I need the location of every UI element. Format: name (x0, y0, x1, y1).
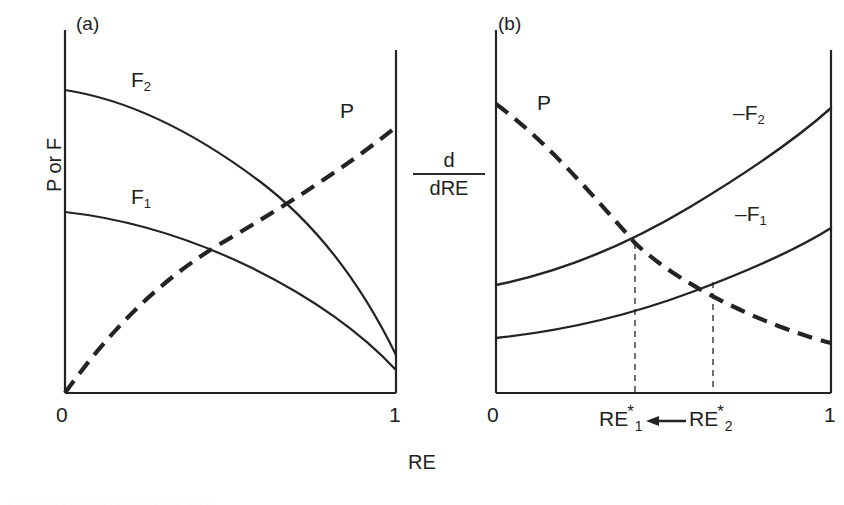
panel-b-tick-re1: RE*1 (599, 404, 643, 429)
panel-b-tick-1: 1 (824, 404, 836, 425)
panel-a-curve-f2 (65, 90, 396, 355)
panel-a-curve-p (65, 127, 396, 393)
panel-b-tick-re1-base: RE (599, 407, 628, 430)
panel-a-axes (65, 30, 396, 393)
panel-a-tag: (a) (76, 14, 99, 33)
panel-b-tick-re2-sub: 2 (725, 418, 733, 434)
panel-b-tick-re2: RE*2 (689, 404, 733, 429)
panel-b-label-nf1-sub: 1 (760, 213, 767, 228)
panel-b-y-axis-title: d dRE (409, 150, 489, 198)
figure-x-axis-title: RE (0, 452, 844, 472)
panel-b-tick-re2-star: * (717, 402, 724, 421)
panel-b-label-nf1: –F1 (735, 203, 767, 224)
panel-b-curve-nf1 (496, 228, 831, 338)
panel-a-label-f1-sub: 1 (144, 196, 151, 211)
fraction-rule (413, 173, 485, 175)
panel-a-label-f2-sub: 2 (144, 79, 151, 94)
panel-b-y-axis-title-denominator: dRE (409, 177, 489, 198)
panel-b-label-nf2: –F2 (733, 102, 765, 123)
panel-a-tick-0: 0 (56, 404, 68, 425)
panel-b-tick-re2-base: RE (689, 407, 718, 430)
panel-a-y-axis-title: P or F (44, 105, 64, 225)
panel-b-curve-nf2 (496, 108, 831, 285)
panel-a-tick-1: 1 (389, 404, 401, 425)
panel-b-tick-re1-sub: 1 (635, 418, 643, 434)
panel-a-label-f2: F2 (131, 69, 151, 90)
figure-caption-sliver: Fig. 10.4 Optimal reproductive effort (8, 496, 448, 505)
panel-b-axes (496, 30, 831, 393)
panel-b-label-nf2-base: –F (733, 101, 758, 124)
panel-b-y-axis-title-numerator: d (409, 150, 489, 172)
panel-b-label-nf2-sub: 2 (758, 112, 765, 127)
figure-root: (a) F2 F1 P 0 1 P or F (b) P –F2 –F1 0 R… (0, 0, 844, 505)
panel-b-tick-0: 0 (487, 404, 499, 425)
panel-b-tag: (b) (498, 14, 521, 33)
panel-b-tick-re1-star: * (627, 402, 634, 421)
panel-a-label-p: P (340, 100, 354, 121)
panel-a-label-f2-base: F (131, 68, 144, 91)
panel-b-label-nf1-base: –F (735, 202, 760, 225)
panel-b-shift-arrow-icon (646, 416, 686, 426)
panel-a-label-f1: F1 (131, 186, 151, 207)
panel-b-label-p: P (537, 92, 551, 113)
panel-a-label-f1-base: F (131, 185, 144, 208)
